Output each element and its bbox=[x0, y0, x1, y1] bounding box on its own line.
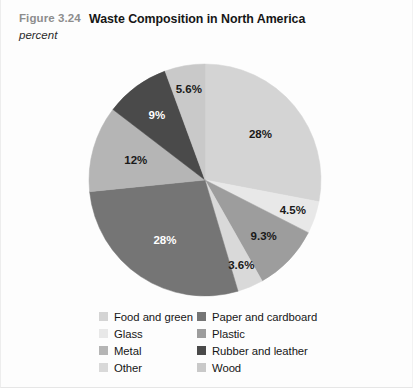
pie-slice-label: 9% bbox=[149, 109, 166, 121]
legend-color-swatch bbox=[99, 329, 108, 338]
pie-slice-label: 5.6% bbox=[176, 83, 202, 95]
legend-color-swatch bbox=[197, 363, 206, 372]
pie-chart: 28%4.5%9.3%3.6%28%12%9%5.6% bbox=[1, 0, 413, 310]
pie-slice-group bbox=[89, 64, 321, 296]
pie-slice-label: 4.5% bbox=[280, 204, 306, 216]
legend-color-swatch bbox=[99, 363, 108, 372]
legend-color-swatch bbox=[99, 346, 108, 355]
legend-item-label: Rubber and leather bbox=[212, 345, 308, 357]
legend-item-label: Other bbox=[114, 362, 142, 374]
legend-column-right: Paper and cardboardPlasticRubber and lea… bbox=[197, 308, 322, 376]
legend-color-swatch bbox=[197, 346, 206, 355]
legend-item[interactable]: Wood bbox=[197, 359, 322, 376]
legend-item[interactable]: Rubber and leather bbox=[197, 342, 322, 359]
legend-item-label: Plastic bbox=[212, 328, 245, 340]
legend-item-label: Metal bbox=[114, 345, 141, 357]
chart-legend: Food and greenGlassMetalOther Paper and … bbox=[99, 308, 349, 380]
legend-color-swatch bbox=[197, 312, 206, 321]
legend-item-label: Food and green bbox=[114, 311, 193, 323]
legend-item-label: Wood bbox=[212, 362, 241, 374]
legend-item[interactable]: Plastic bbox=[197, 325, 322, 342]
figure-container: Figure 3.24 Waste Composition in North A… bbox=[0, 0, 413, 388]
pie-slice-label: 12% bbox=[124, 154, 147, 166]
legend-item[interactable]: Paper and cardboard bbox=[197, 308, 322, 325]
pie-slice-label: 3.6% bbox=[228, 259, 254, 271]
legend-item-label: Paper and cardboard bbox=[212, 311, 317, 323]
legend-color-swatch bbox=[197, 329, 206, 338]
legend-item-label: Glass bbox=[114, 328, 143, 340]
legend-color-swatch bbox=[99, 312, 108, 321]
pie-slice-label: 9.3% bbox=[251, 230, 277, 242]
pie-slice-label: 28% bbox=[249, 128, 272, 140]
pie-chart-svg: 28%4.5%9.3%3.6%28%12%9%5.6% bbox=[1, 0, 413, 310]
pie-slice-label: 28% bbox=[153, 234, 176, 246]
